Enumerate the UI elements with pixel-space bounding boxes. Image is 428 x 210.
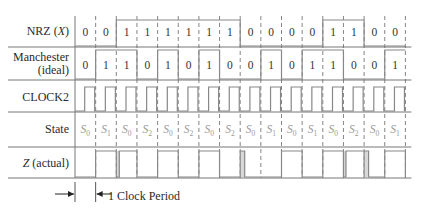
nrz-bit-value: 0 xyxy=(289,26,295,38)
clock-period-label: 1 Clock Period xyxy=(108,189,180,204)
nrz-bit-value: 1 xyxy=(227,26,233,38)
manchester-bit-value: 1 xyxy=(310,59,316,71)
z-actual-waveform xyxy=(75,151,405,177)
manchester-bit-value: 0 xyxy=(248,59,254,71)
manchester-bit-value: 0 xyxy=(227,59,233,71)
nrz-bit-value: 1 xyxy=(144,26,150,38)
state-value: S0 xyxy=(122,123,132,138)
manchester-bit-value: 1 xyxy=(206,59,212,71)
state-value: S2 xyxy=(184,123,194,138)
state-value: S1 xyxy=(101,123,111,138)
nrz-bit-value: 0 xyxy=(268,26,274,38)
manchester-bit-value: 1 xyxy=(124,59,130,71)
manchester-bit-value: 1 xyxy=(392,59,398,71)
manchester-bit-value: 1 xyxy=(165,59,171,71)
nrz-bit-value: 0 xyxy=(82,26,88,38)
manchester-bit-value: 1 xyxy=(268,59,274,71)
waveform-canvas: 00111111000011000110101001011001S0S1S0S2… xyxy=(0,0,428,210)
state-value: S0 xyxy=(287,123,297,138)
manchester-bit-value: 0 xyxy=(351,59,357,71)
nrz-bit-value: 0 xyxy=(103,26,109,38)
state-value: S0 xyxy=(328,123,338,138)
nrz-bit-value: 0 xyxy=(310,26,316,38)
manchester-bit-value: 0 xyxy=(372,59,378,71)
state-value: S0 xyxy=(246,123,256,138)
state-value: S2 xyxy=(349,123,359,138)
nrz-bit-value: 1 xyxy=(206,26,212,38)
state-value: S1 xyxy=(266,123,276,138)
timing-diagram: NRZ (X) Manchester (ideal) CLOCK2 State … xyxy=(0,0,428,210)
nrz-bit-value: 1 xyxy=(124,26,130,38)
manchester-bit-value: 0 xyxy=(82,59,88,71)
nrz-bit-value: 1 xyxy=(330,26,336,38)
nrz-bit-value: 1 xyxy=(186,26,192,38)
manchester-bit-value: 1 xyxy=(330,59,336,71)
state-value: S1 xyxy=(308,123,318,138)
nrz-bit-value: 0 xyxy=(372,26,378,38)
state-value: S0 xyxy=(163,123,173,138)
nrz-bit-value: 0 xyxy=(392,26,398,38)
state-value: S2 xyxy=(225,123,235,138)
nrz-bit-value: 1 xyxy=(351,26,357,38)
nrz-bit-value: 1 xyxy=(165,26,171,38)
manchester-bit-value: 0 xyxy=(144,59,150,71)
nrz-bit-value: 0 xyxy=(248,26,254,38)
arrow-right-icon xyxy=(68,191,74,197)
manchester-bit-value: 0 xyxy=(186,59,192,71)
manchester-bit-value: 0 xyxy=(289,59,295,71)
state-value: S0 xyxy=(204,123,214,138)
manchester-bit-value: 1 xyxy=(103,59,109,71)
z-glitch xyxy=(240,151,245,177)
z-glitch xyxy=(364,151,369,177)
state-value: S0 xyxy=(370,123,380,138)
state-value: S1 xyxy=(390,123,400,138)
state-value: S0 xyxy=(81,123,91,138)
arrow-left-icon xyxy=(97,191,103,197)
state-value: S2 xyxy=(143,123,153,138)
